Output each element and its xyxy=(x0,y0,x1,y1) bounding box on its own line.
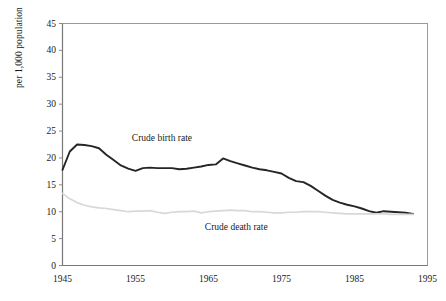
series-line-death-rate xyxy=(63,193,413,214)
y-tick-label: 40 xyxy=(32,45,56,55)
x-tick-label: 1945 xyxy=(43,274,83,284)
x-tick-label: 1955 xyxy=(116,274,156,284)
series-annotation-death-rate: Crude death rate xyxy=(205,222,268,232)
y-tick-label: 45 xyxy=(32,19,56,29)
chart-plot-area xyxy=(0,0,446,301)
y-tick-label: 25 xyxy=(32,126,56,136)
y-tick-label: 15 xyxy=(32,180,56,190)
x-tick-label: 1965 xyxy=(189,274,229,284)
x-tick-label: 1995 xyxy=(408,274,446,284)
y-tick-label: 10 xyxy=(32,207,56,217)
y-tick-label: 0 xyxy=(32,261,56,271)
y-tick-label: 20 xyxy=(32,153,56,163)
y-tick-label: 5 xyxy=(32,234,56,244)
chart-figure: per 1,000 population 051015202530354045 … xyxy=(0,0,446,301)
series-annotation-birth-rate: Crude birth rate xyxy=(132,133,192,143)
x-tick-label: 1975 xyxy=(262,274,302,284)
y-tick-label: 30 xyxy=(32,99,56,109)
x-tick-label: 1985 xyxy=(335,274,375,284)
y-tick-label: 35 xyxy=(32,72,56,82)
series-line-birth-rate xyxy=(63,145,413,214)
